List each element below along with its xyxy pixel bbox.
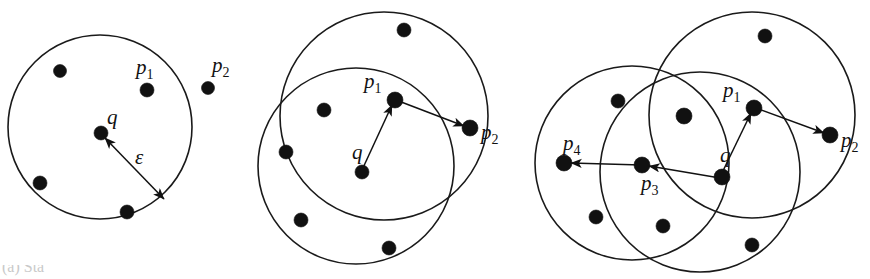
point-p2-label-subscript: 2: [492, 132, 499, 147]
point-p2-label-subscript: 2: [223, 65, 230, 80]
point-q: [94, 126, 108, 140]
panels-layer: p1p2qεp1p2qp1p2p4p3q: [8, 12, 859, 272]
point-unlabeled-2: [33, 176, 47, 190]
point-q-label: q: [352, 140, 363, 164]
point-p2-label: p2: [839, 128, 859, 155]
point-p1: [746, 100, 762, 116]
panel-single-epsilon-ball: p1p2qε: [8, 35, 230, 219]
point-unlabeled-1: [758, 29, 772, 43]
figure-root: p1p2qεp1p2qp1p2p4p3q (a) Sta: [0, 0, 870, 279]
arrow-q-to-p3: [649, 166, 720, 178]
point-unlabeled-1: [54, 65, 67, 78]
point-q: [355, 165, 369, 179]
point-p1-label: p1: [362, 69, 382, 96]
figure-canvas: p1p2qεp1p2qp1p2p4p3q: [0, 0, 870, 279]
epsilon-label: ε: [135, 145, 144, 169]
point-unlabeled-5: [656, 219, 670, 233]
point-p3-label-subscript: 3: [652, 183, 659, 198]
arrow-q-to-p1: [362, 105, 392, 170]
point-unlabeled-2: [611, 94, 625, 108]
point-unlabeled-2: [317, 103, 331, 117]
point-unlabeled-3: [120, 205, 134, 219]
point-unlabeled-6: [745, 238, 759, 252]
point-p4-label-subscript: 4: [574, 143, 581, 158]
point-p2-label-subscript: 2: [852, 140, 859, 155]
point-unlabeled-4: [589, 210, 603, 224]
caption-strip: (a) Sta: [0, 265, 870, 279]
point-p1: [387, 92, 403, 108]
point-p4: [556, 155, 572, 171]
point-p3-label: p3: [639, 171, 659, 198]
epsilon-ball-q-circle: [600, 72, 800, 272]
point-q: [714, 169, 730, 185]
point-p1-label-subscript: 1: [734, 90, 741, 105]
point-p2-label: p2: [479, 120, 499, 147]
point-p4-label: p4: [561, 131, 581, 158]
epsilon-ball-p1-circle: [280, 12, 488, 220]
point-p2: [822, 127, 838, 143]
point-p2: [202, 82, 215, 95]
point-p2: [462, 120, 478, 136]
point-p1-label-subscript: 1: [375, 81, 382, 96]
point-unlabeled-1: [397, 23, 411, 37]
point-q-label: q: [720, 143, 731, 167]
point-unlabeled-4: [294, 213, 308, 227]
point-q-label: q: [107, 105, 118, 129]
epsilon-ball-q-circle: [258, 68, 454, 264]
figure-caption-partial: (a) Sta: [2, 265, 44, 276]
point-unlabeled-3: [279, 145, 293, 159]
point-p1: [140, 83, 154, 97]
panel-three-overlapping-epsilon-balls: p1p2p4p3q: [535, 12, 859, 272]
panel-two-overlapping-epsilon-balls: p1p2q: [258, 12, 499, 264]
arrow-p1-to-p2: [396, 100, 464, 126]
point-unlabeled-3: [676, 108, 692, 124]
point-p2-label: p2: [210, 53, 230, 80]
point-p1-label: p1: [134, 55, 154, 82]
point-p1-label: p1: [721, 78, 741, 105]
point-p1-label-subscript: 1: [147, 67, 154, 82]
point-unlabeled-5: [382, 241, 396, 255]
arrow-p3-to-p4: [571, 163, 641, 165]
